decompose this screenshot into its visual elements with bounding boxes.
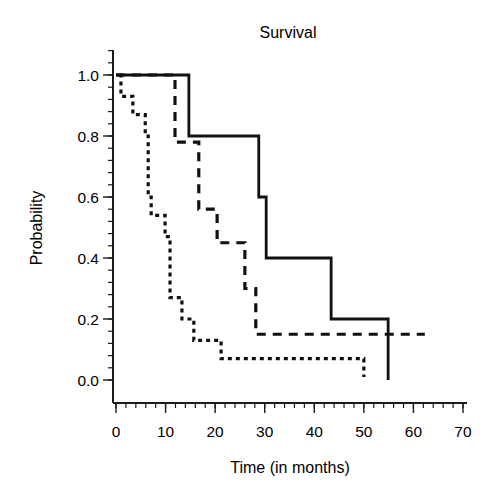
x-tick-label: 0 <box>112 423 121 440</box>
axes: 0102030405060700.00.20.40.60.81.0 <box>77 50 472 440</box>
y-tick-label: 1.0 <box>77 67 99 84</box>
x-tick-label: 10 <box>157 423 175 440</box>
x-axis-label: Time (in months) <box>230 459 349 476</box>
x-tick-label: 70 <box>454 423 472 440</box>
y-tick-label: 0.8 <box>77 128 99 145</box>
y-tick-label: 0.0 <box>77 372 99 389</box>
survival-curves <box>116 75 425 380</box>
chart-title: Survival <box>260 24 317 41</box>
curve-solid <box>116 75 388 380</box>
x-tick-label: 30 <box>256 423 274 440</box>
y-tick-label: 0.6 <box>77 189 99 206</box>
curve-dashed <box>116 75 425 334</box>
x-tick-label: 50 <box>355 423 373 440</box>
x-tick-label: 60 <box>405 423 423 440</box>
survival-chart: Survival Probability Time (in months) 01… <box>0 0 491 497</box>
x-tick-label: 40 <box>306 423 324 440</box>
y-axis-label: Probability <box>28 191 45 266</box>
x-tick-label: 20 <box>207 423 225 440</box>
curve-dotted <box>119 75 363 377</box>
y-tick-label: 0.4 <box>77 250 99 267</box>
y-tick-label: 0.2 <box>77 311 99 328</box>
